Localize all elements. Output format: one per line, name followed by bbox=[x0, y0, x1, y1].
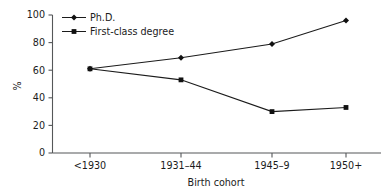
x-tick-label-0: <1930 bbox=[74, 160, 106, 171]
data-point bbox=[88, 66, 93, 71]
y-tick-label-80: 80 bbox=[33, 37, 45, 48]
x-tick-label-3: 1950+ bbox=[330, 160, 362, 171]
birth-cohort-line-chart: 0 20 40 60 80 100 % <1930 1931–44 1945–9… bbox=[0, 0, 391, 192]
x-tick-label-2: 1945–9 bbox=[254, 160, 289, 171]
data-point bbox=[270, 109, 275, 114]
y-tick-label-20: 20 bbox=[33, 120, 45, 131]
data-point bbox=[344, 105, 349, 110]
legend-label-first-class-degree: First-class degree bbox=[90, 26, 174, 37]
square-marker-icon bbox=[72, 29, 77, 34]
y-axis-title: % bbox=[12, 81, 23, 90]
legend-label-phd: Ph.D. bbox=[90, 12, 115, 23]
x-tick-label-1: 1931–44 bbox=[160, 160, 201, 171]
y-tick-label-40: 40 bbox=[33, 92, 45, 103]
chart-figure: 0 20 40 60 80 100 % <1930 1931–44 1945–9… bbox=[0, 0, 391, 192]
x-axis-title: Birth cohort bbox=[188, 177, 245, 188]
data-point bbox=[179, 77, 184, 82]
y-tick-label-60: 60 bbox=[33, 65, 45, 76]
y-tick-label-100: 100 bbox=[27, 9, 45, 20]
y-tick-label-0: 0 bbox=[39, 147, 45, 158]
